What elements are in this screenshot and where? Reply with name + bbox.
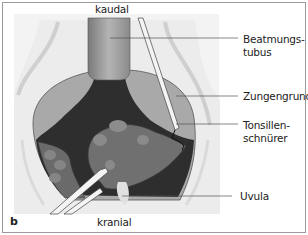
label-line: Uvula xyxy=(240,190,269,203)
orientation-bottom-label: kranial xyxy=(97,216,131,228)
label-zungengrund: Zungengrund xyxy=(243,90,308,103)
endotracheal-tube xyxy=(88,18,130,80)
orientation-top-label: kaudal xyxy=(95,3,129,15)
label-line: Zungengrund xyxy=(243,90,308,103)
label-line: schnürer xyxy=(243,132,290,145)
label-tonsillenschnuerer: Tonsillen- schnürer xyxy=(243,119,290,144)
panel-letter: b xyxy=(10,215,18,228)
label-line: Beatmungs- xyxy=(243,33,305,46)
label-line: Tonsillen- xyxy=(243,119,290,132)
label-uvula: Uvula xyxy=(240,190,269,203)
label-line: tubus xyxy=(243,46,305,59)
label-beatmungstubus: Beatmungs- tubus xyxy=(243,33,305,58)
